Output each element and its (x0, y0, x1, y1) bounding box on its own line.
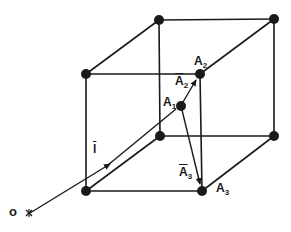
lattice-point-back-top-left (154, 15, 164, 25)
vector-l-label: l (93, 143, 96, 155)
lattice-point-front-bottom-left (81, 186, 91, 196)
vector-l-line (108, 109, 176, 165)
lattice-point-back-bottom-left (155, 131, 165, 141)
lattice-point-a3 (197, 186, 207, 196)
lattice-drawing (0, 0, 291, 232)
vector-a2-label: A2 (175, 75, 188, 90)
vector-l-arrow (30, 164, 110, 213)
lattice-point-a2 (195, 69, 205, 79)
lattice-point-back-bottom-right (269, 131, 279, 141)
vector-a3-label: A3 (179, 166, 192, 181)
cubic-lattice-diagram: o l A1 A2 A2 A3 A3 (0, 0, 291, 232)
a2-label: A2 (194, 55, 207, 70)
origin-label: o (9, 205, 17, 218)
a3-label: A3 (216, 182, 229, 197)
lattice-point-a1 (176, 101, 186, 111)
a1-label: A1 (163, 96, 176, 111)
lattice-point-back-top-right (269, 14, 279, 24)
lattice-point-front-top-left (81, 69, 91, 79)
